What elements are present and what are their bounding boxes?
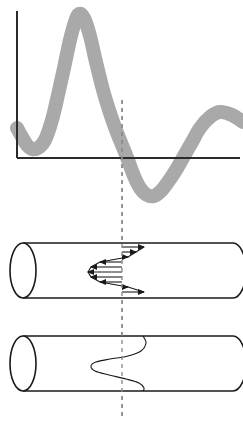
waveform-band-stroke <box>17 14 243 197</box>
pipe-with-velocity-envelope <box>10 336 243 391</box>
flow-waveform-band <box>17 14 243 197</box>
velocity-waveform-plot <box>17 11 243 196</box>
pipe-left-cap-ellipse <box>10 243 36 298</box>
pipe-with-velocity-vectors <box>10 243 243 298</box>
pipe2-left-cap-ellipse <box>10 336 36 391</box>
flow-waveform-and-pipe-diagram <box>0 0 243 434</box>
pipe-body-fill <box>10 243 243 298</box>
pipe2-body-fill <box>10 336 243 391</box>
figure-root <box>0 0 243 434</box>
